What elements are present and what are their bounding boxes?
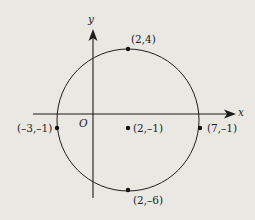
point-top bbox=[126, 47, 130, 51]
point-center bbox=[126, 126, 130, 130]
point-left-label: (–3,–1) bbox=[17, 123, 52, 134]
point-top-label: (2,4) bbox=[131, 34, 156, 45]
point-bottom-label: (2,–6) bbox=[133, 195, 163, 206]
point-bottom bbox=[126, 188, 130, 192]
point-left bbox=[55, 126, 59, 130]
y-axis-label: y bbox=[88, 14, 94, 25]
diagram-canvas: y x O (2,4) (–3,–1) (2,–1) (7,–1) (2,–6) bbox=[0, 0, 255, 220]
x-axis-label: x bbox=[238, 107, 244, 118]
point-right bbox=[198, 126, 202, 130]
diagram-svg bbox=[0, 0, 255, 220]
origin-label: O bbox=[79, 118, 88, 129]
point-right-label: (7,–1) bbox=[207, 123, 237, 134]
point-center-label: (2,–1) bbox=[133, 123, 163, 134]
